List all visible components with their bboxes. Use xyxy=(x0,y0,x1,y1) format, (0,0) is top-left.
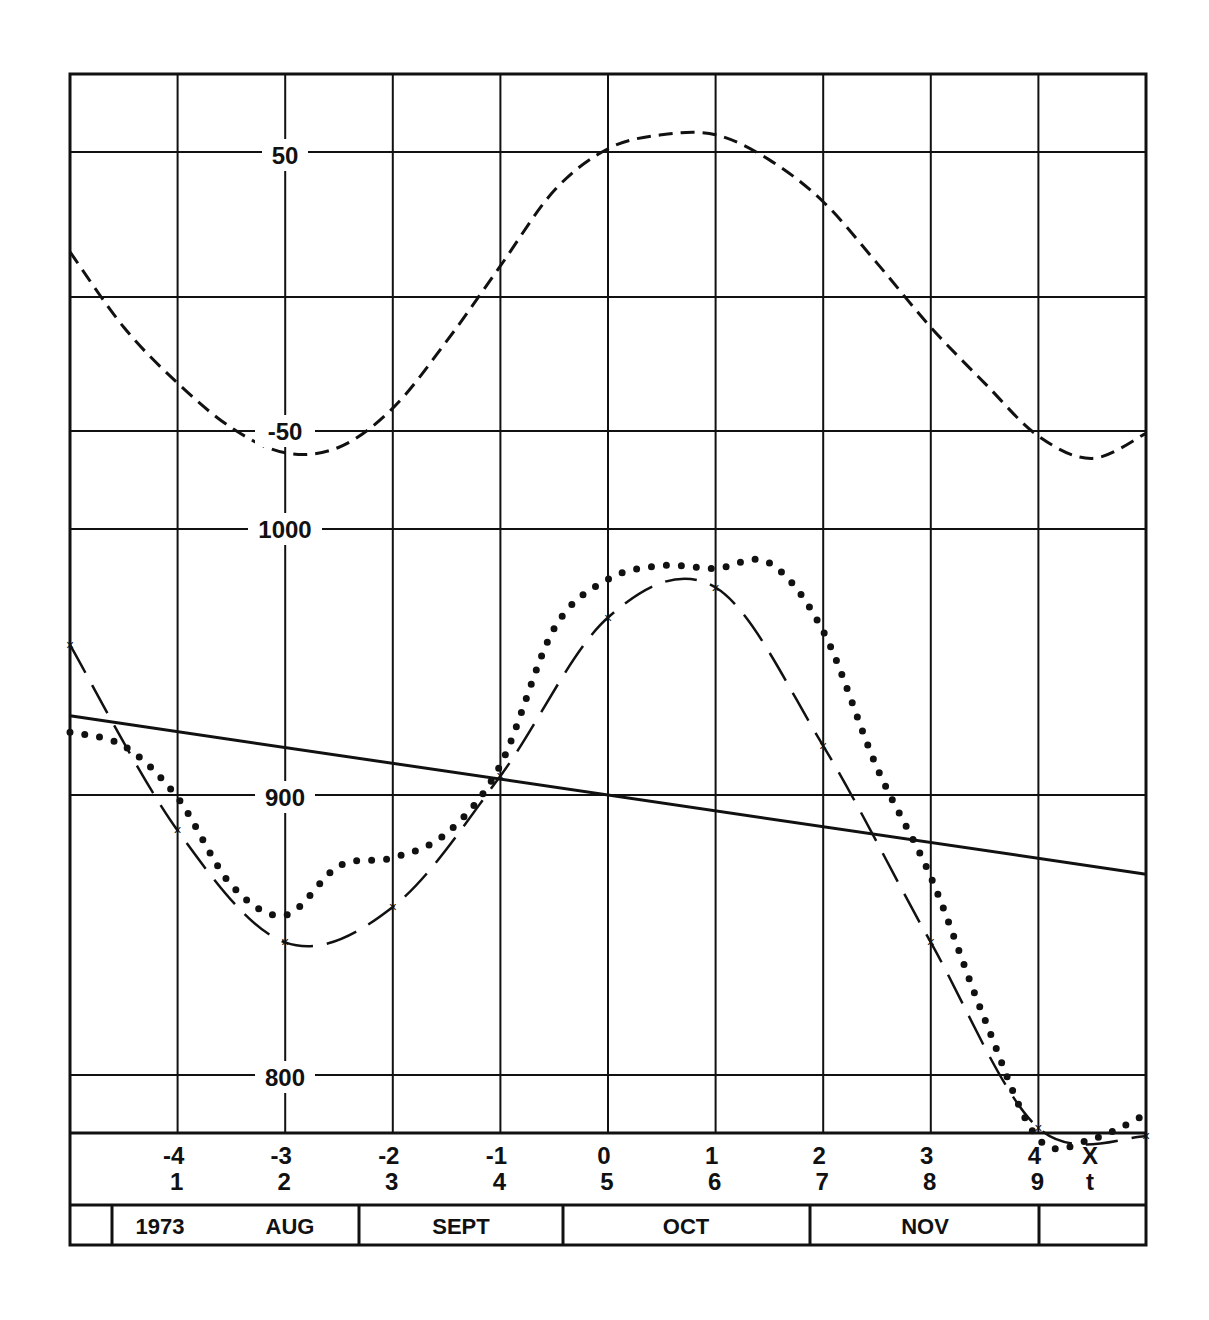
x-marker-icon: × xyxy=(281,934,289,950)
x-tick-label: -1 xyxy=(486,1142,507,1169)
t-tick-label: 6 xyxy=(708,1168,721,1195)
x-tick-label: 3 xyxy=(920,1142,933,1169)
year-label: 1973 xyxy=(136,1214,185,1239)
x-tick-label: 2 xyxy=(813,1142,826,1169)
x-tick-label: -2 xyxy=(378,1142,399,1169)
t-tick-label: 3 xyxy=(385,1168,398,1195)
x-axis-tick-labels: -41-32-23-140516273849Xt xyxy=(163,1142,1098,1195)
month-label: NOV xyxy=(901,1214,949,1239)
t-tick-label: 5 xyxy=(600,1168,613,1195)
t-tick-label: 4 xyxy=(493,1168,507,1195)
month-dividers xyxy=(112,1205,1039,1245)
x-marker-icon: × xyxy=(927,934,935,950)
t-tick-label: 8 xyxy=(923,1168,936,1195)
month-label: OCT xyxy=(663,1214,710,1239)
month-label: SEPT xyxy=(432,1214,490,1239)
x-marker-icon: × xyxy=(819,738,827,754)
t-variable-label: t xyxy=(1086,1168,1094,1195)
chart: ××××××××××× 50-501000900800 -41-32-23-14… xyxy=(0,0,1209,1320)
t-tick-label: 7 xyxy=(816,1168,829,1195)
x-tick-label: -3 xyxy=(271,1142,292,1169)
x-tick-label: -4 xyxy=(163,1142,185,1169)
x-marker-icon: × xyxy=(66,637,74,653)
t-tick-label: 1 xyxy=(170,1168,183,1195)
y-tick-label: 900 xyxy=(265,784,305,811)
month-label: AUG xyxy=(266,1214,315,1239)
x-tick-label: 4 xyxy=(1028,1142,1042,1169)
y-tick-label: 50 xyxy=(272,142,299,169)
x-marker-icon: × xyxy=(1142,1128,1150,1144)
month-labels: 1973AUGSEPTOCTNOV xyxy=(136,1214,950,1239)
y-tick-label: -50 xyxy=(268,418,303,445)
vertical-gridlines xyxy=(178,74,1039,1133)
y-tick-label: 1000 xyxy=(258,516,311,543)
x-tick-label: 1 xyxy=(705,1142,718,1169)
x-marker-icon: × xyxy=(604,610,612,626)
x-marker-icon: × xyxy=(174,822,182,838)
x-marker-icon: × xyxy=(1034,1120,1042,1136)
t-tick-label: 9 xyxy=(1031,1168,1044,1195)
x-tick-label: 0 xyxy=(597,1142,610,1169)
x-marker-icon: × xyxy=(712,580,720,596)
x-variable-label: X xyxy=(1082,1142,1098,1169)
t-tick-label: 2 xyxy=(278,1168,291,1195)
y-tick-label: 800 xyxy=(265,1064,305,1091)
x-marker-icon: × xyxy=(389,899,397,915)
